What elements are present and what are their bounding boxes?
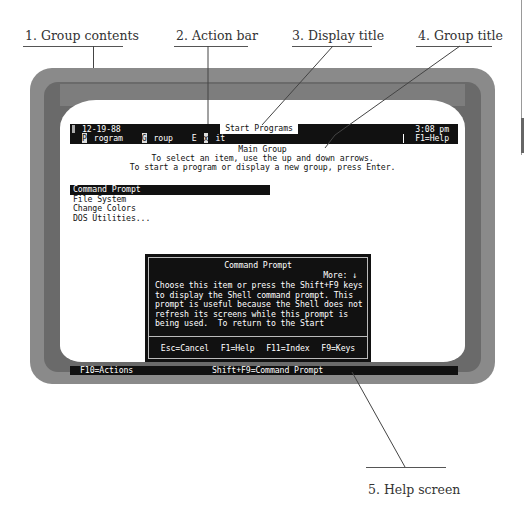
callout-leaders [0, 0, 525, 505]
